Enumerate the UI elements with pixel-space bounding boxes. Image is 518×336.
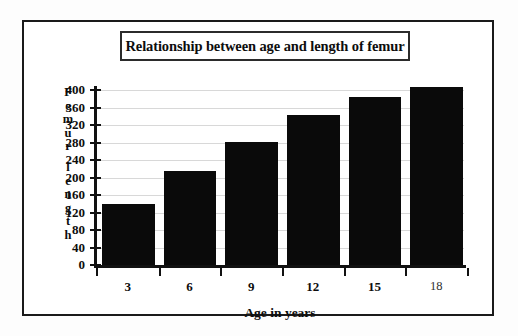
x-axis-tick xyxy=(344,268,346,276)
y-axis-tick-label: 360 xyxy=(66,100,86,116)
x-axis-tick-label: 15 xyxy=(368,279,381,295)
chart-frame: Relationship between age and length of f… xyxy=(22,20,494,316)
gridline xyxy=(97,125,464,126)
y-axis-tick-label: 160 xyxy=(66,187,86,203)
bar xyxy=(410,87,463,265)
bar xyxy=(287,115,340,265)
gridline xyxy=(97,178,464,179)
y-axis-tick-label: 40 xyxy=(72,240,85,256)
x-axis-tick xyxy=(405,268,407,276)
x-axis-tick xyxy=(467,268,469,276)
y-axis-tick xyxy=(90,264,101,266)
gridline xyxy=(97,90,464,91)
y-axis-tick xyxy=(90,247,101,249)
y-axis-tick xyxy=(90,159,101,161)
y-axis-tick-label: 240 xyxy=(66,152,86,168)
x-axis-tick-label: 12 xyxy=(306,279,319,295)
x-axis-tick-label: 3 xyxy=(125,279,132,295)
y-axis-tick-label: 280 xyxy=(66,135,86,151)
x-axis-tick xyxy=(159,268,161,276)
x-axis-title: Age in years xyxy=(94,305,466,321)
y-axis-tick-label: 0 xyxy=(79,257,86,273)
bar xyxy=(225,142,278,265)
y-axis-tick-label: 200 xyxy=(66,170,86,186)
y-axis-tick xyxy=(90,142,101,144)
gridline xyxy=(97,160,464,161)
y-axis-tick xyxy=(90,212,101,214)
y-axis-tick-label: 400 xyxy=(66,82,86,98)
gridline xyxy=(97,143,464,144)
x-axis-tick xyxy=(220,268,222,276)
chart-page: Relationship between age and length of f… xyxy=(0,0,518,336)
y-axis-tick xyxy=(90,107,101,109)
y-axis-tick xyxy=(90,89,101,91)
y-axis-tick-label: 120 xyxy=(66,205,86,221)
plot-area: 04080120160200240280320360400 369121518 xyxy=(94,90,464,265)
y-axis-tick xyxy=(90,124,101,126)
x-axis-tick xyxy=(282,268,284,276)
x-axis-tick-label: 6 xyxy=(186,279,193,295)
y-axis-tick xyxy=(90,229,101,231)
x-axis-tick xyxy=(96,268,98,276)
bar xyxy=(164,171,217,265)
x-axis-tick-label: 9 xyxy=(248,279,255,295)
x-axis-line xyxy=(94,265,466,268)
gridline xyxy=(97,195,464,196)
y-axis-tick xyxy=(90,194,101,196)
y-axis-tick-label: 320 xyxy=(66,117,86,133)
x-axis-tick-label: 18 xyxy=(430,279,443,294)
bar xyxy=(349,97,402,265)
bar xyxy=(102,204,155,265)
gridline xyxy=(97,108,464,109)
y-axis-tick xyxy=(90,177,101,179)
chart-title-box: Relationship between age and length of f… xyxy=(120,31,410,61)
y-axis-tick-label: 80 xyxy=(72,222,85,238)
chart-title: Relationship between age and length of f… xyxy=(125,38,404,55)
